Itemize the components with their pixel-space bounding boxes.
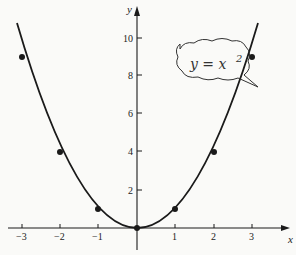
point-1-1 [172,206,178,212]
x-tick-label: 1 [172,231,177,242]
x-tick-label: 3 [249,231,254,242]
y-tick-label: 4 [128,146,133,157]
y-ticks: 2 4 6 8 10 [123,33,142,196]
y-tick-label: 6 [128,108,133,119]
x-tick-label: 2 [211,231,216,242]
y-tick-label: 10 [123,33,133,44]
point-0-0 [134,225,140,231]
y-axis-arrow-icon [134,6,140,16]
x-tick-label: −3 [16,231,27,242]
point-neg1-1 [95,206,101,212]
y-axis-label: y [126,3,132,15]
x-tick-label: −2 [54,231,65,242]
bubble-equation: y = x [189,56,227,72]
point-neg2-4 [57,149,63,155]
point-2-4 [211,149,217,155]
point-neg3-9 [19,54,25,60]
y-tick-label: 8 [128,70,133,81]
bubble-exponent: 2 [235,53,242,64]
x-tick-label: −1 [92,231,103,242]
parabola-figure: x y −3 −2 −1 1 2 3 2 4 6 8 10 [0,0,296,255]
x-axis-arrow-icon [281,225,290,231]
x-axis-label: x [287,233,293,245]
y-tick-label: 2 [128,185,133,196]
